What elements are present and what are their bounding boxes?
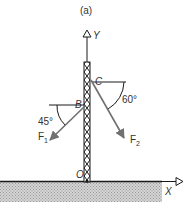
force-f1-label: F1 bbox=[38, 131, 48, 144]
ground bbox=[0, 182, 162, 203]
force-f1-arrow bbox=[50, 106, 85, 140]
x-axis-arrow-icon bbox=[162, 178, 183, 186]
force-diagram: (a) X Y O C 60° F2 B 45° F1 bbox=[0, 0, 189, 202]
force-f2-label: F2 bbox=[130, 134, 140, 147]
origin-label: O bbox=[76, 169, 84, 180]
angle-arc-45 bbox=[57, 105, 65, 125]
angle-60-label: 60° bbox=[122, 94, 137, 105]
figure-caption: (a) bbox=[80, 5, 92, 16]
y-axis-label: Y bbox=[93, 30, 101, 41]
lattice-pole bbox=[84, 62, 90, 182]
x-axis-label: X bbox=[164, 186, 172, 197]
y-axis-arrow-icon bbox=[83, 30, 91, 62]
angle-45-label: 45° bbox=[38, 116, 53, 127]
origin-point bbox=[86, 180, 89, 183]
force-f2-arrow bbox=[91, 80, 124, 138]
